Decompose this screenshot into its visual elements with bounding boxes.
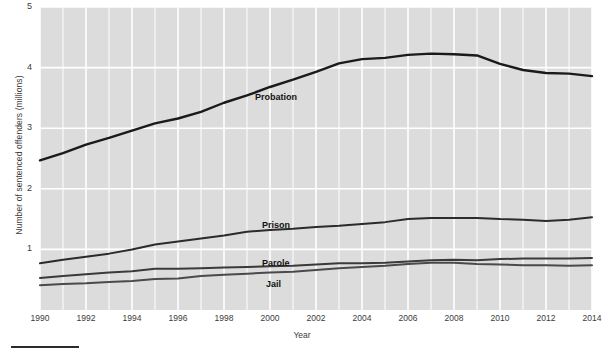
series-label-parole: Parole: [262, 258, 290, 268]
y-tick-label: 5: [8, 1, 32, 11]
x-tick-label: 1990: [20, 313, 60, 323]
footer-rule: [11, 346, 79, 348]
x-tick-label: 2006: [388, 313, 428, 323]
series-label-prison: Prison: [262, 220, 290, 230]
x-tick-label: 2010: [480, 313, 520, 323]
x-tick-label: 1994: [112, 313, 152, 323]
x-tick-label: 2008: [434, 313, 474, 323]
x-tick-label: 2014: [572, 313, 604, 323]
y-axis-title: Number of sentenced offenders (millions): [14, 40, 24, 270]
x-tick-label: 2012: [526, 313, 566, 323]
plot-area: [0, 0, 604, 353]
x-tick-label: 1992: [66, 313, 106, 323]
x-tick-label: 2000: [250, 313, 290, 323]
y-tick-label: 4: [8, 62, 32, 72]
x-axis-title: Year: [0, 330, 604, 340]
series-label-probation: Probation: [255, 92, 297, 102]
x-tick-label: 2004: [342, 313, 382, 323]
series-label-jail: Jail: [266, 279, 281, 289]
y-tick-label: 1: [8, 243, 32, 253]
chart-figure: Number of sentenced offenders (millions)…: [0, 0, 604, 353]
x-tick-label: 2002: [296, 313, 336, 323]
y-tick-label: 2: [8, 183, 32, 193]
x-tick-label: 1998: [204, 313, 244, 323]
x-tick-label: 1996: [158, 313, 198, 323]
y-tick-label: 3: [8, 122, 32, 132]
